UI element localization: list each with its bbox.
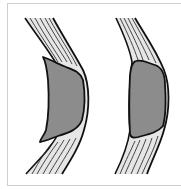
diagram bbox=[0, 0, 181, 189]
right-lesion bbox=[129, 60, 165, 137]
